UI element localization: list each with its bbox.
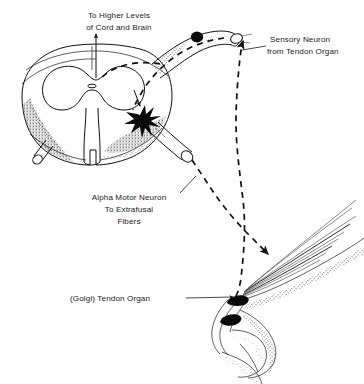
tendon-organ-label-line1: (Golgi) Tendon Organ (70, 294, 150, 303)
golgi-tendon-organ-figure: To Higher Levels of Cord and Brain Senso… (0, 0, 364, 384)
label-tendon-organ: (Golgi) Tendon Organ (70, 294, 150, 303)
alpha-motor-neuron-label-line2: To Extrafusal (105, 205, 153, 214)
alpha-motor-neuron-label-line1: Alpha Motor Neuron (92, 193, 167, 202)
sensory-neuron-label-line1: Sensory Neuron (270, 35, 330, 44)
ascending-tract-label-line2: of Cord and Brain (86, 23, 151, 32)
ascending-tract-label-line1: To Higher Levels (88, 11, 150, 20)
alpha-motor-neuron-label-line3: Fibers (117, 217, 140, 226)
figure-background (0, 0, 364, 384)
anatomy-diagram: To Higher Levels of Cord and Brain Senso… (0, 0, 364, 384)
sensory-neuron-label-line2: from Tendon Organ (267, 47, 339, 56)
